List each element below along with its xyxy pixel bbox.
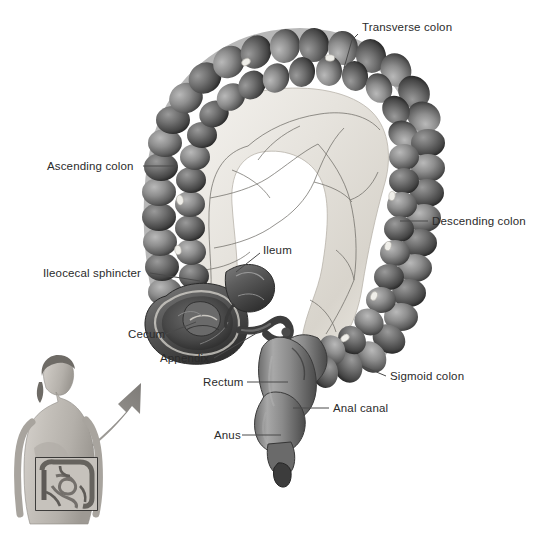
label-transverse-colon: Transverse colon <box>362 22 452 34</box>
ileocecal-sphincter <box>183 302 220 336</box>
label-cecum: Cecum <box>128 329 165 341</box>
inset-intestines <box>36 458 97 510</box>
label-ileocecal-sphincter: Ileocecal sphincter <box>43 268 141 280</box>
label-ileum: Ileum <box>263 245 292 257</box>
label-anal-canal: Anal canal <box>333 403 388 415</box>
illustration-canvas: Transverse colonAscending colonDescendin… <box>0 0 542 549</box>
rectum-region <box>255 335 327 487</box>
anus <box>273 463 291 487</box>
label-appendix: Appendix <box>160 353 209 365</box>
label-descending-colon: Descending colon <box>432 216 526 228</box>
label-anus: Anus <box>214 430 241 442</box>
label-sigmoid-colon: Sigmoid colon <box>390 371 464 383</box>
label-ascending-colon: Ascending colon <box>47 161 134 173</box>
label-rectum: Rectum <box>203 377 244 389</box>
body-orientation-inset <box>18 355 141 524</box>
